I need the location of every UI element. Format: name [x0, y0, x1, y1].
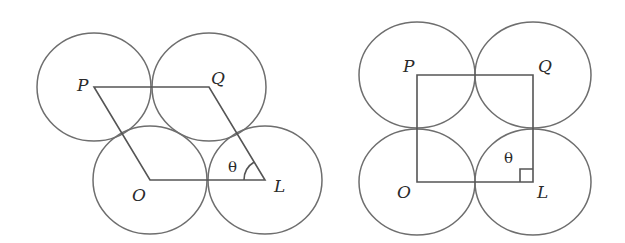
- label-q-right: Q: [538, 56, 552, 76]
- angle-arc-theta-left: [244, 162, 254, 180]
- label-o-left: O: [132, 185, 146, 205]
- diagram-canvas: P Q O L θ P Q O L θ: [0, 0, 625, 243]
- square-opql: [417, 75, 533, 182]
- right-figure-square: P Q O L θ: [359, 22, 591, 235]
- label-p-left: P: [76, 75, 89, 95]
- left-figure-rhombus: P Q O L θ: [37, 33, 322, 234]
- label-theta-right: θ: [504, 149, 513, 167]
- label-theta-left: θ: [228, 158, 237, 176]
- right-angle-marker: [520, 169, 533, 182]
- label-l-left: L: [273, 176, 285, 196]
- label-l-right: L: [536, 182, 548, 202]
- label-p-right: P: [402, 56, 415, 76]
- label-q-left: Q: [211, 68, 225, 88]
- label-o-right: O: [397, 182, 411, 202]
